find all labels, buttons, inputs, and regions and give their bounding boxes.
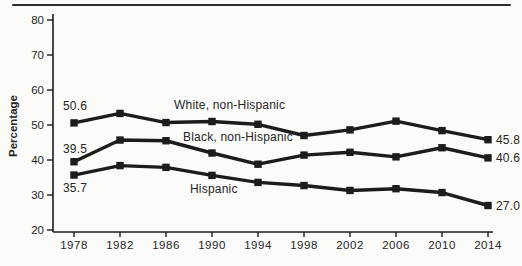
data-point-marker-hispanic — [208, 172, 215, 179]
x-tick-label: 1982 — [106, 239, 134, 251]
series-label-white-non-hispanic: White, non-Hispanic — [174, 99, 285, 111]
value-label-first-white: 50.6 — [63, 100, 87, 112]
x-tick-label: 2010 — [428, 239, 456, 251]
y-tick-label: 50 — [31, 119, 44, 131]
x-tick-label: 1994 — [244, 239, 272, 251]
x-tick-label: 1986 — [152, 239, 180, 251]
data-point-marker-white-non-hispanic — [346, 126, 353, 133]
data-point-marker-hispanic — [484, 202, 491, 209]
data-point-marker-white-non-hispanic — [116, 110, 123, 117]
data-point-marker-black-non-hispanic — [300, 151, 307, 158]
data-point-marker-white-non-hispanic — [438, 127, 445, 134]
value-label-first-hispanic: 35.7 — [63, 182, 87, 194]
data-point-marker-hispanic — [392, 185, 399, 192]
data-point-marker-hispanic — [162, 164, 169, 171]
series-label-black-non-hispanic: Black, non-Hispanic — [183, 131, 293, 143]
y-tick-label: 80 — [31, 14, 44, 26]
y-tick-label: 70 — [31, 49, 44, 61]
data-point-marker-black-non-hispanic — [484, 154, 491, 161]
data-point-marker-white-non-hispanic — [392, 117, 399, 124]
x-tick-label: 2002 — [336, 239, 364, 251]
x-tick-label: 1978 — [60, 239, 88, 251]
value-label-last-hispanic: 27.0 — [496, 200, 520, 212]
data-point-marker-black-non-hispanic — [346, 149, 353, 156]
x-tick-label: 1998 — [290, 239, 318, 251]
data-point-marker-hispanic — [70, 171, 77, 178]
data-point-marker-hispanic — [346, 187, 353, 194]
y-tick-label: 60 — [31, 84, 44, 96]
value-label-last-black: 40.6 — [496, 152, 520, 164]
data-point-marker-black-non-hispanic — [392, 153, 399, 160]
value-label-first-black: 39.5 — [63, 143, 87, 155]
series-line-hispanic — [74, 166, 488, 206]
data-point-marker-white-non-hispanic — [300, 132, 307, 139]
data-point-marker-black-non-hispanic — [438, 144, 445, 151]
figure: 8070605040302019781982198619901994199820… — [0, 0, 522, 266]
x-tick-label: 2014 — [474, 239, 502, 251]
data-point-marker-black-non-hispanic — [70, 158, 77, 165]
series-label-hispanic: Hispanic — [190, 183, 238, 195]
x-tick-label: 1990 — [198, 239, 226, 251]
data-point-marker-white-non-hispanic — [208, 118, 215, 125]
data-point-marker-hispanic — [116, 162, 123, 169]
x-tick-label: 2006 — [382, 239, 410, 251]
data-point-marker-white-non-hispanic — [484, 136, 491, 143]
data-point-marker-white-non-hispanic — [70, 119, 77, 126]
y-tick-label: 30 — [31, 189, 44, 201]
value-label-last-white: 45.8 — [496, 134, 520, 146]
y-axis-title: Percentage — [7, 95, 19, 157]
y-tick-label: 40 — [31, 154, 44, 166]
data-point-marker-white-non-hispanic — [254, 121, 261, 128]
data-point-marker-black-non-hispanic — [162, 137, 169, 144]
data-point-marker-white-non-hispanic — [162, 119, 169, 126]
data-point-marker-hispanic — [300, 182, 307, 189]
data-point-marker-black-non-hispanic — [116, 136, 123, 143]
data-point-marker-hispanic — [438, 189, 445, 196]
data-point-marker-hispanic — [254, 179, 261, 186]
y-tick-label: 20 — [31, 224, 44, 236]
data-point-marker-black-non-hispanic — [208, 149, 215, 156]
data-point-marker-black-non-hispanic — [254, 161, 261, 168]
